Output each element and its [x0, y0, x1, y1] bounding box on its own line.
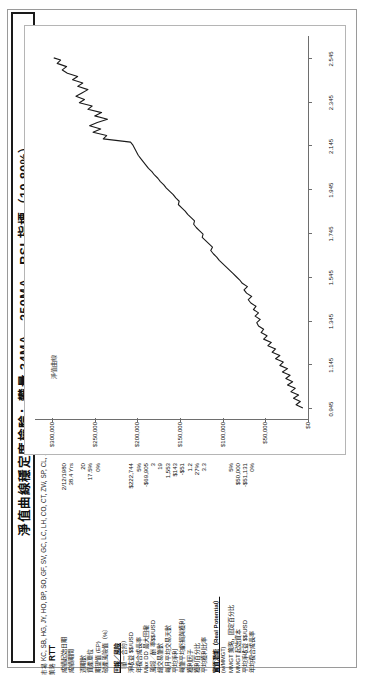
chart-y-tick-mark — [52, 418, 53, 422]
stats-row-value: 38.4 Yrs — [67, 461, 74, 544]
chart-y-tick-label: $200,000 — [134, 422, 140, 454]
chart-y-tick-label: $250,000 — [92, 422, 98, 454]
chart-plot-area: 淨值曲線 — [35, 36, 309, 420]
chart-x-tick-label: 1.545 — [328, 270, 334, 285]
stats-row: 破產風險值（%） — [101, 461, 108, 675]
chart-x-tick-label: 1.745 — [328, 226, 334, 241]
stats-row: 實質潛能（Real Potential） — [213, 461, 220, 675]
equity-curve-line — [35, 36, 308, 419]
stats-row-value — [101, 461, 108, 544]
stats-row-label: (w/MMGT) — [220, 544, 227, 675]
chart-x-tick-label: 2.545 — [328, 51, 334, 66]
stats-row-value: 17.5% — [87, 461, 94, 544]
stats-row-value: 3 — [150, 461, 157, 544]
stats-row-label: 淨收益 $$/USD — [128, 544, 135, 675]
chart-x-tick-mark — [308, 408, 312, 409]
stats-row-value: 27% — [193, 461, 200, 544]
page-frame: 淨值曲線穩定度檢驗：攀量 34MA、250MA、RSI 指標（10,80%） 市… — [0, 0, 366, 677]
stats-row-value — [220, 461, 227, 544]
chart-x-tick-label: 1.145 — [328, 358, 334, 373]
report-sheet: 淨值曲線穩定度檢驗：攀量 34MA、250MA、RSI 指標（10,80%） 市… — [0, 0, 366, 677]
chart-y-tick-label: $50,000 — [262, 422, 268, 454]
market-label: 市場 — [40, 663, 48, 675]
chart-x-tick-label: 1.345 — [328, 314, 334, 329]
stats-row-value: 0% — [94, 461, 101, 544]
stats-row: 成績期間38.4 Yrs — [67, 461, 74, 675]
stats-row: 回報／風險 — [114, 461, 121, 675]
chart-y-tick-mark — [223, 418, 224, 422]
stats-row-value: -$51 — [179, 461, 186, 544]
chart-x-tick-label: 2.345 — [328, 95, 334, 110]
chart-x-tick-label: 1.945 — [328, 183, 334, 198]
stats-row: 淨收益 $$/USD$222,744 — [128, 461, 135, 675]
chart-y-tick-label: $100,000 — [220, 422, 226, 454]
stats-row-label: 平均獲利比率 — [201, 544, 208, 675]
chart-y-tick-mark — [180, 418, 181, 422]
stats-row-label: 年均複合成長率 — [249, 544, 256, 675]
chart-y-tick-label: $150,000 — [177, 422, 183, 454]
chart-y-tick-mark — [137, 418, 138, 422]
stats-row: 平均獲利比率3.3 — [201, 461, 208, 675]
stats-row-value: 0% — [249, 461, 256, 544]
chart-x-tick-mark — [308, 102, 312, 103]
stats-row: 年均複合成長率0% — [249, 461, 256, 675]
stats-row: (w/MMGT) — [220, 461, 227, 675]
stats-row: 每月平均交易天數1,553 — [164, 461, 171, 675]
stats-row-value: -$69,905 — [142, 461, 149, 544]
chart-x-tick-mark — [308, 321, 312, 322]
chart-y-tick-label: $0 — [305, 422, 311, 454]
chart-y-tick-mark — [95, 418, 96, 422]
chart-x-tick-mark — [308, 145, 312, 146]
stats-row-value — [114, 461, 121, 544]
stats-table: 成績起始日期2/12/1980成績期間38.4 Yrs週期數20資產單位17.5… — [60, 461, 256, 675]
chart-y-tick-mark — [265, 418, 266, 422]
stats-row-value — [213, 461, 220, 544]
stats-row-label: 每筆平均虧損與獲利 — [179, 544, 186, 675]
equity-curve-chart: 淨值曲線 $0$50,000$100,000$150,000$200,000$2… — [24, 25, 346, 455]
stats-row-value: 3.3 — [201, 461, 208, 544]
strategy-label: 策略 — [48, 663, 56, 675]
statistics-table: 成績起始日期2/12/1980成績期間38.4 Yrs週期數20資產單位17.5… — [60, 461, 256, 675]
stats-row: 成績起始日期2/12/1980 — [60, 461, 67, 675]
stats-row: 週期數20 — [80, 461, 87, 675]
chart-x-tick-mark — [308, 233, 312, 234]
stats-row-label: 破產風險值（%） — [101, 544, 108, 675]
chart-x-tick-mark — [308, 277, 312, 278]
stats-row-value: $222,744 — [128, 461, 135, 544]
strategy-value: RTT — [48, 645, 57, 661]
stats-row-label: 成績期間 — [67, 544, 74, 675]
chart-x-tick-mark — [308, 58, 312, 59]
stats-row-value: -$51,131 — [241, 461, 248, 544]
chart-y-tick-mark — [308, 418, 309, 422]
stats-row: 每筆平均虧損與獲利-$51 — [179, 461, 186, 675]
chart-x-tick-mark — [308, 189, 312, 190]
chart-y-tick-label: $300,000 — [49, 422, 55, 454]
chart-x-tick-mark — [308, 364, 312, 365]
stats-row-label: 回報／風險 — [114, 544, 121, 675]
chart-x-tick-label: 0.945 — [328, 402, 334, 417]
chart-x-tick-label: 2.145 — [328, 139, 334, 154]
